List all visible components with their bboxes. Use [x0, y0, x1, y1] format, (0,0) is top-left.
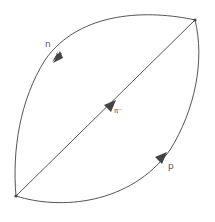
lower-arrow-icon [155, 152, 167, 164]
upper-arrow-head-icon [53, 51, 63, 63]
lower-arc-line [16, 20, 199, 203]
feynman-diagram [0, 0, 215, 222]
label-p: p [168, 162, 174, 171]
label-pi-minus: π⁻ [114, 108, 122, 115]
label-n: n [45, 40, 51, 49]
vertex-bottom-left [14, 194, 17, 197]
vertex-top-right [193, 18, 196, 21]
